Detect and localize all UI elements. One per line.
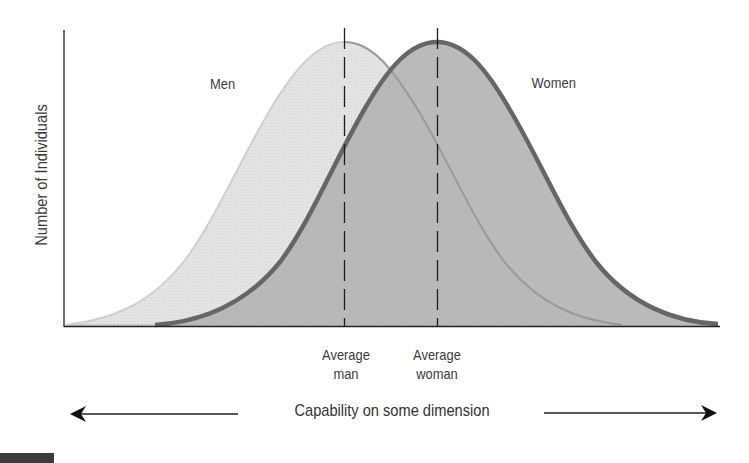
corner-decoration-bar xyxy=(0,453,54,463)
women-label: Women xyxy=(532,73,576,92)
average-man-label-line2: man xyxy=(307,364,384,383)
x-axis-label: Capability on some dimension xyxy=(294,401,489,421)
men-label: Men xyxy=(210,74,235,93)
y-axis-label: Number of Individuals xyxy=(32,104,52,245)
average-man-label: Average man xyxy=(307,345,384,383)
distribution-plot xyxy=(0,0,749,463)
distribution-figure: Men Women Average man Average woman Numb… xyxy=(0,0,749,463)
average-man-label-line1: Average xyxy=(307,345,384,364)
average-woman-label-line1: Average xyxy=(398,345,475,364)
average-woman-label: Average woman xyxy=(398,345,475,383)
average-woman-label-line2: woman xyxy=(398,364,475,383)
